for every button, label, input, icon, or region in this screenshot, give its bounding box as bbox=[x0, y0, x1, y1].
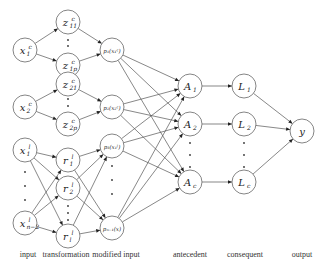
node-L2: L2 bbox=[232, 112, 256, 136]
edge-L1-y bbox=[253, 93, 292, 123]
arrowhead-icon bbox=[286, 127, 290, 131]
arrowhead-icon bbox=[179, 134, 183, 138]
node-label-sub: 1 bbox=[70, 160, 74, 167]
edge-z11-p1 bbox=[78, 28, 102, 43]
arrowhead-icon bbox=[96, 229, 100, 233]
ellipsis-dot bbox=[189, 142, 191, 144]
arrowhead-icon bbox=[52, 58, 56, 61]
node-p2: p₂(x₂ᶜ) bbox=[100, 95, 124, 119]
node-circle bbox=[56, 176, 80, 200]
edge-p1-A2 bbox=[121, 58, 182, 115]
edge-r2-p3 bbox=[77, 154, 104, 179]
node-label: L bbox=[237, 81, 245, 92]
node-r2: rl2 bbox=[56, 176, 80, 200]
ellipsis-dot bbox=[67, 205, 69, 207]
ellipsis-dot bbox=[24, 171, 26, 173]
node-label: pₙ₋₁(x) bbox=[103, 226, 121, 233]
neuro-fuzzy-network-diagram: xc1xc2xl1xln−2zc11zc1pzc21zc2prl1rl2rllp… bbox=[0, 0, 330, 270]
node-label-sub: 2p bbox=[69, 124, 78, 132]
node-label-sup: l bbox=[72, 153, 74, 160]
edge-p3-A1 bbox=[122, 93, 181, 138]
node-L1: L1 bbox=[232, 74, 256, 98]
node-label-sub: 2 bbox=[69, 188, 74, 195]
arrowhead-icon bbox=[228, 122, 232, 126]
arrowhead-icon bbox=[96, 149, 100, 152]
node-label-sub: 1p bbox=[70, 65, 78, 73]
node-label-sub: 1 bbox=[27, 150, 31, 157]
node-label-sup: l bbox=[29, 143, 31, 150]
ellipsis-dot bbox=[24, 199, 26, 201]
node-rl: rll bbox=[56, 224, 80, 248]
ellipsis-dot bbox=[243, 154, 245, 156]
edge-pn1-A1 bbox=[118, 97, 184, 218]
ellipsis-dot bbox=[24, 185, 26, 187]
arrowhead-icon bbox=[54, 29, 58, 33]
node-circle bbox=[56, 148, 80, 172]
arrowhead-icon bbox=[96, 53, 100, 56]
node-label: x bbox=[20, 45, 26, 56]
node-label-sup: l bbox=[72, 229, 74, 236]
node-label-sub: 21 bbox=[69, 84, 78, 91]
layer-label-antecedent: antecedent bbox=[173, 250, 208, 259]
node-label-sup: l bbox=[29, 216, 31, 223]
layer-label-input: input bbox=[20, 250, 37, 259]
arrowhead-icon bbox=[57, 170, 61, 174]
ellipsis-dot bbox=[111, 179, 113, 181]
node-label: z bbox=[62, 60, 69, 71]
node-label-sub: n−2 bbox=[27, 223, 40, 230]
layer-label-modified-input: modified input bbox=[92, 250, 140, 259]
node-label: z bbox=[62, 79, 69, 90]
node-label: L bbox=[237, 177, 245, 188]
arrowhead-icon bbox=[98, 40, 102, 44]
node-label: y bbox=[298, 126, 305, 137]
arrowhead-icon bbox=[228, 84, 232, 88]
arrowhead-icon bbox=[176, 93, 180, 97]
ellipsis-dot bbox=[111, 193, 113, 195]
node-label: p₂(x₂ᶜ) bbox=[103, 105, 120, 112]
node-r1: rl1 bbox=[56, 148, 80, 172]
edge-p3-Ac bbox=[123, 151, 179, 177]
ellipsis-dot bbox=[189, 166, 191, 168]
edge-L2-y bbox=[256, 125, 290, 129]
edge-pn1-A2 bbox=[119, 134, 183, 219]
edge-xn2l-r2 bbox=[34, 196, 58, 216]
ellipsis-dot bbox=[67, 39, 69, 41]
node-p3: p₃(x₁ˡ) bbox=[100, 134, 124, 158]
node-label: z bbox=[62, 119, 69, 130]
ellipsis-dot bbox=[67, 98, 69, 100]
arrowhead-icon bbox=[174, 119, 178, 123]
ellipsis-dot bbox=[67, 212, 69, 214]
node-y: y bbox=[290, 119, 314, 143]
ellipsis-dot bbox=[67, 105, 69, 107]
node-A1: A1 bbox=[178, 74, 202, 98]
arrowhead-icon bbox=[96, 111, 100, 114]
node-x2c: xc2 bbox=[13, 95, 37, 119]
ellipsis-dot bbox=[111, 165, 113, 167]
layer-label-transformation: transformation bbox=[42, 250, 89, 259]
node-z11: zc11 bbox=[56, 10, 80, 34]
edge-p2-A2 bbox=[124, 110, 179, 122]
node-label-sub: 2 bbox=[192, 124, 197, 131]
arrowhead-icon bbox=[288, 120, 292, 124]
node-label: x bbox=[20, 218, 26, 229]
node-Lc: Lc bbox=[232, 170, 256, 194]
edge-x1l-r2 bbox=[34, 158, 59, 180]
node-Ac: Ac bbox=[178, 170, 202, 194]
node-label: A bbox=[183, 119, 191, 130]
node-label: L bbox=[237, 119, 245, 130]
node-label-sub: 2 bbox=[246, 124, 251, 131]
node-label-sub: 1 bbox=[27, 50, 31, 57]
node-label-sub: l bbox=[70, 236, 72, 243]
node-label: A bbox=[183, 81, 191, 92]
ellipsis-dot bbox=[67, 45, 69, 47]
node-label: x bbox=[20, 102, 26, 113]
node-label-sup: l bbox=[72, 181, 74, 188]
ellipsis-dot bbox=[67, 219, 69, 221]
layer-labels: input transformation modified input ante… bbox=[20, 250, 313, 259]
arrowhead-icon bbox=[228, 180, 232, 184]
node-pn1: pₙ₋₁(x) bbox=[100, 216, 124, 240]
ellipsis-dot bbox=[243, 142, 245, 144]
node-p1: p₁(x₁ᶜ) bbox=[100, 38, 124, 62]
node-A2: A2 bbox=[178, 112, 202, 136]
node-z2p: zc2p bbox=[56, 112, 80, 136]
